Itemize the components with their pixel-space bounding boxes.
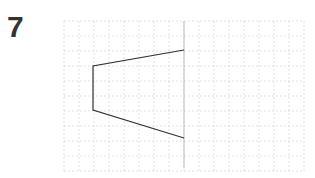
trapezoid-shape (93, 50, 184, 138)
reflection-grid-diagram (0, 0, 315, 178)
